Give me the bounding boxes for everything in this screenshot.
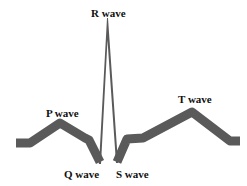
s-wave-label: S wave bbox=[116, 168, 149, 180]
r-wave-spike bbox=[99, 18, 118, 164]
ecg-trace-right bbox=[117, 112, 240, 162]
r-wave-label: R wave bbox=[91, 7, 126, 19]
ecg-trace-left bbox=[16, 123, 100, 162]
t-wave-label: T wave bbox=[178, 93, 212, 105]
q-wave-label: Q wave bbox=[64, 168, 99, 180]
p-wave-label: P wave bbox=[46, 107, 79, 119]
ecg-diagram: R wave P wave T wave Q wave S wave bbox=[0, 0, 247, 186]
